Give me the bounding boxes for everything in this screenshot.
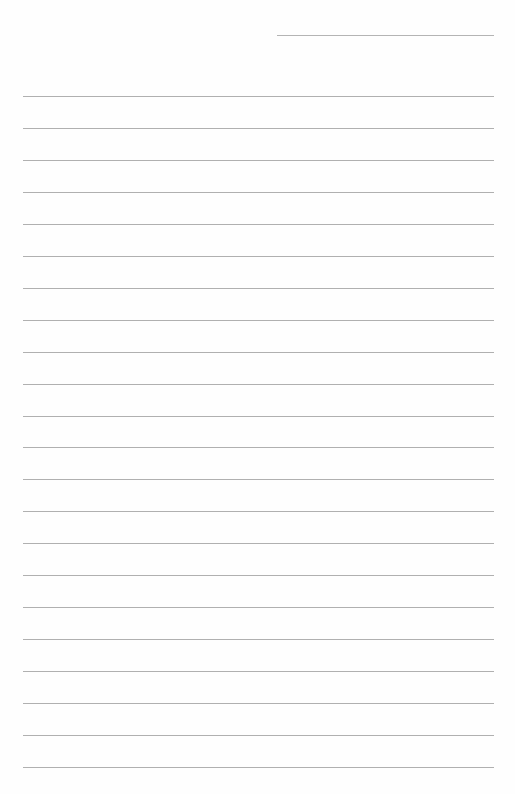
ruled-line xyxy=(23,288,494,289)
header-rule xyxy=(277,35,494,36)
ruled-line xyxy=(23,479,494,480)
ruled-line xyxy=(23,703,494,704)
ruled-line xyxy=(23,416,494,417)
ruled-line xyxy=(23,384,494,385)
ruled-line xyxy=(23,224,494,225)
ruled-line xyxy=(23,511,494,512)
ruled-line xyxy=(23,192,494,193)
ruled-line xyxy=(23,256,494,257)
ruled-line xyxy=(23,639,494,640)
ruled-line xyxy=(23,352,494,353)
ruled-line xyxy=(23,767,494,768)
ruled-line xyxy=(23,671,494,672)
ruled-line xyxy=(23,607,494,608)
ruled-line xyxy=(23,128,494,129)
ruled-line xyxy=(23,543,494,544)
ruled-line xyxy=(23,575,494,576)
ruled-line xyxy=(23,96,494,97)
ruled-line xyxy=(23,735,494,736)
ruled-line xyxy=(23,160,494,161)
ruled-line xyxy=(23,320,494,321)
lined-paper-page xyxy=(0,0,515,794)
ruled-line xyxy=(23,447,494,448)
